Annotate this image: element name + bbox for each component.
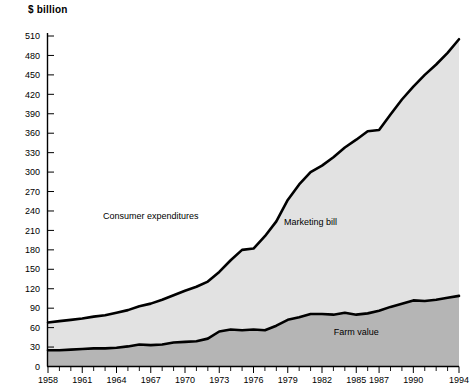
y-tick-label: 0 [35, 362, 40, 372]
x-tick-label: 1987 [369, 375, 389, 385]
y-tick-label: 420 [25, 90, 40, 100]
y-tick-label: 390 [25, 109, 40, 119]
y-tick-label: 240 [25, 206, 40, 216]
y-tick-label: 330 [25, 148, 40, 158]
series-annotation-label: Consumer expenditures [103, 211, 199, 221]
y-axis-tick-labels-group: 0306090120150180210240270300330360390420… [25, 31, 40, 372]
x-tick-label: 1976 [243, 375, 263, 385]
y-tick-label: 60 [30, 323, 40, 333]
x-tick-label: 1973 [209, 375, 229, 385]
chart-container: $ billion 030609012015018021024027030033… [0, 0, 471, 390]
x-tick-label: 1985 [346, 375, 366, 385]
y-tick-label: 120 [25, 284, 40, 294]
y-tick-label: 450 [25, 70, 40, 80]
x-tick-label: 1961 [72, 375, 92, 385]
y-tick-label: 90 [30, 303, 40, 313]
y-tick-label: 300 [25, 167, 40, 177]
x-tick-label: 1967 [141, 375, 161, 385]
x-tick-label: 1982 [312, 375, 332, 385]
x-tick-label: 1979 [278, 375, 298, 385]
series-annotation-label: Marketing bill [284, 217, 337, 227]
x-axis-tick-labels-group: 1958196119641967197019731976197919821985… [38, 375, 469, 385]
y-tick-label: 510 [25, 31, 40, 41]
y-tick-label: 30 [30, 342, 40, 352]
y-tick-label: 360 [25, 128, 40, 138]
series-annotation-label: Farm value [334, 327, 379, 337]
x-tick-label: 1994 [449, 375, 469, 385]
y-tick-label: 480 [25, 51, 40, 61]
y-tick-label: 270 [25, 187, 40, 197]
food-expenditure-area-chart: 0306090120150180210240270300330360390420… [0, 0, 471, 390]
y-tick-label: 180 [25, 245, 40, 255]
x-tick-label: 1970 [175, 375, 195, 385]
x-tick-label: 1990 [403, 375, 423, 385]
y-tick-label: 150 [25, 264, 40, 274]
x-tick-label: 1964 [106, 375, 126, 385]
x-tick-label: 1958 [38, 375, 58, 385]
area-fills-group [48, 39, 459, 366]
y-tick-label: 210 [25, 226, 40, 236]
